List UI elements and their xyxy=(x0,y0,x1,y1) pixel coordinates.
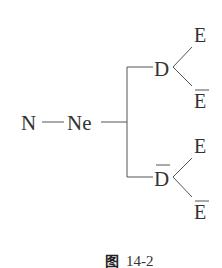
edge-dbar-e xyxy=(173,158,192,177)
node-e-bottom: E xyxy=(194,135,206,157)
node-ebar-bottom: E xyxy=(194,201,206,223)
node-dbar: D xyxy=(154,167,169,191)
tree-diagram: N Ne D E E D E E 图 14-2 xyxy=(0,0,222,268)
edge-dbar-ebar xyxy=(173,177,192,197)
node-ebar-top: E xyxy=(194,90,206,112)
caption-prefix: 图 xyxy=(105,253,119,268)
node-ne: Ne xyxy=(67,111,92,135)
node-n: N xyxy=(21,111,36,135)
caption-number: 14-2 xyxy=(126,253,154,268)
edge-d-e xyxy=(173,47,192,67)
edge-d-ebar xyxy=(173,67,192,86)
node-e-top: E xyxy=(194,24,206,46)
node-d: D xyxy=(154,57,169,81)
